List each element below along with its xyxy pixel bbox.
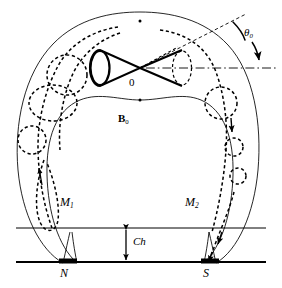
mirror-point-2-label: M2	[185, 196, 199, 209]
north-pole-label: N	[60, 267, 68, 279]
origin-label: 0	[129, 77, 135, 88]
north-pole-marker	[59, 259, 77, 264]
vortex-loop-right-lower	[230, 168, 246, 184]
double-cone-loss-cone	[90, 47, 192, 86]
vortex-loop-left-lower	[18, 126, 46, 154]
outer-arc-apex-dot	[139, 20, 142, 23]
south-pole-label: S	[203, 267, 209, 279]
tilt-angle-label: θ0	[244, 27, 253, 39]
inner-arc-apex-dot	[139, 99, 142, 102]
vortex-loop-right-middle	[225, 138, 243, 156]
magnetic-field-label: B0	[118, 113, 129, 125]
mirror-point-1-label: M1	[60, 196, 74, 209]
vortex-loop-left-middle	[29, 85, 77, 121]
ch-height-label: Ch	[133, 236, 146, 247]
